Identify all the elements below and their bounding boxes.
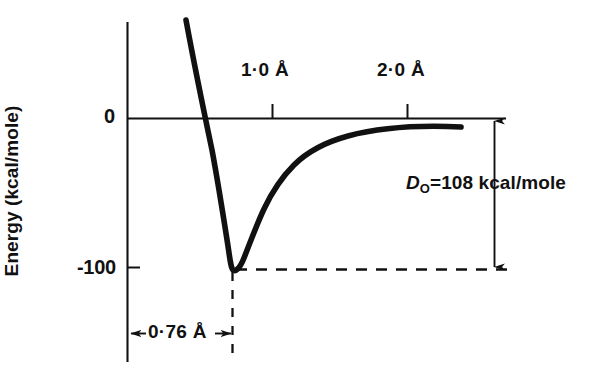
dissociation-energy-subscript: O bbox=[420, 181, 430, 196]
y-tick-label-minus-100: -100 bbox=[77, 257, 116, 277]
dissociation-energy-symbol: D bbox=[406, 172, 420, 193]
potential-energy-curve bbox=[186, 20, 461, 271]
dissociation-energy-label: DO=108 kcal/mole bbox=[406, 173, 566, 195]
x-tick-label-2-angstrom: 2·0 Å bbox=[377, 60, 425, 79]
y-axis-title: Energy (kcal/mole) bbox=[2, 86, 28, 296]
y-tick-label-zero: 0 bbox=[104, 106, 115, 126]
x-tick-label-1-angstrom: 1·0 Å bbox=[241, 60, 289, 79]
dissociation-energy-equals: = bbox=[430, 172, 441, 193]
dissociation-energy-value: 108 kcal/mole bbox=[441, 172, 566, 193]
potential-energy-figure: Energy (kcal/mole) 0 -100 1·0 Å 2·0 Å DO… bbox=[0, 0, 616, 378]
bond-length-label: 0·76 Å bbox=[148, 322, 207, 341]
